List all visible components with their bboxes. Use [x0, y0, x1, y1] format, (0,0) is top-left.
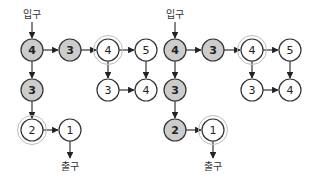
graph-node: 3 [241, 79, 263, 101]
right-graph: 입구출구434533421 [164, 8, 301, 172]
graph-node: 4 [94, 36, 123, 65]
graph-node: 4 [238, 36, 267, 65]
node-value: 5 [287, 44, 294, 57]
node-value: 4 [171, 44, 179, 57]
graph-node: 4 [279, 79, 301, 101]
graph-node: 2 [18, 116, 47, 145]
node-value: 4 [105, 44, 112, 57]
entrance-label: 입구 [166, 8, 184, 20]
graph-node: 1 [59, 119, 81, 141]
graph-node: 2 [164, 119, 186, 141]
left-graph: 입구출구434533421 [18, 8, 158, 172]
graph-node: 4 [21, 39, 43, 61]
graph-node: 5 [135, 39, 157, 61]
graph-node: 5 [279, 39, 301, 61]
node-value: 3 [171, 84, 179, 97]
graph-node: 3 [202, 39, 224, 61]
node-value: 3 [209, 44, 217, 57]
node-value: 1 [67, 124, 74, 137]
graph-node: 3 [21, 79, 43, 101]
graph-node: 4 [135, 79, 157, 101]
entrance-label: 입구 [23, 8, 41, 20]
node-value: 2 [29, 124, 36, 137]
node-value: 5 [143, 44, 150, 57]
node-value: 1 [210, 124, 217, 137]
graph-node: 4 [164, 39, 186, 61]
graph-diagram-canvas: 입구출구434533421 입구출구434533421 [0, 0, 317, 186]
node-value: 4 [249, 44, 256, 57]
exit-label: 출구 [204, 161, 222, 172]
node-value: 4 [287, 84, 294, 97]
node-value: 3 [66, 44, 74, 57]
node-value: 4 [28, 44, 36, 57]
node-value: 4 [143, 84, 150, 97]
graph-node: 3 [59, 39, 81, 61]
node-value: 3 [28, 84, 36, 97]
node-value: 3 [249, 84, 256, 97]
graph-node: 1 [199, 116, 228, 145]
exit-label: 출구 [61, 161, 79, 172]
node-value: 2 [171, 124, 179, 137]
graph-node: 3 [164, 79, 186, 101]
graph-node: 3 [97, 79, 119, 101]
node-value: 3 [105, 84, 112, 97]
